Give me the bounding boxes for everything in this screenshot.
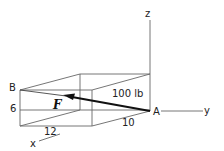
box-edge — [20, 74, 80, 90]
force-arrow — [72, 97, 150, 111]
force-label: F — [52, 98, 63, 112]
arrowhead-icon — [63, 94, 75, 101]
line-AB — [20, 90, 66, 96]
point-A-label: A — [153, 106, 160, 117]
length-y-label: 10 — [122, 117, 135, 128]
y-label: y — [204, 105, 210, 116]
box-edge — [92, 111, 150, 126]
magnitude-label: 100 lb — [112, 88, 143, 99]
force-diagram: z y x A B 6 12 10 100 lb F — [0, 0, 224, 151]
point-B-label: B — [9, 82, 16, 93]
box-edge — [20, 110, 80, 126]
length-x-label: 12 — [44, 126, 57, 137]
height-label: 6 — [10, 103, 16, 114]
box-edges — [20, 20, 203, 141]
x-label: x — [30, 138, 36, 149]
z-label: z — [145, 8, 150, 19]
